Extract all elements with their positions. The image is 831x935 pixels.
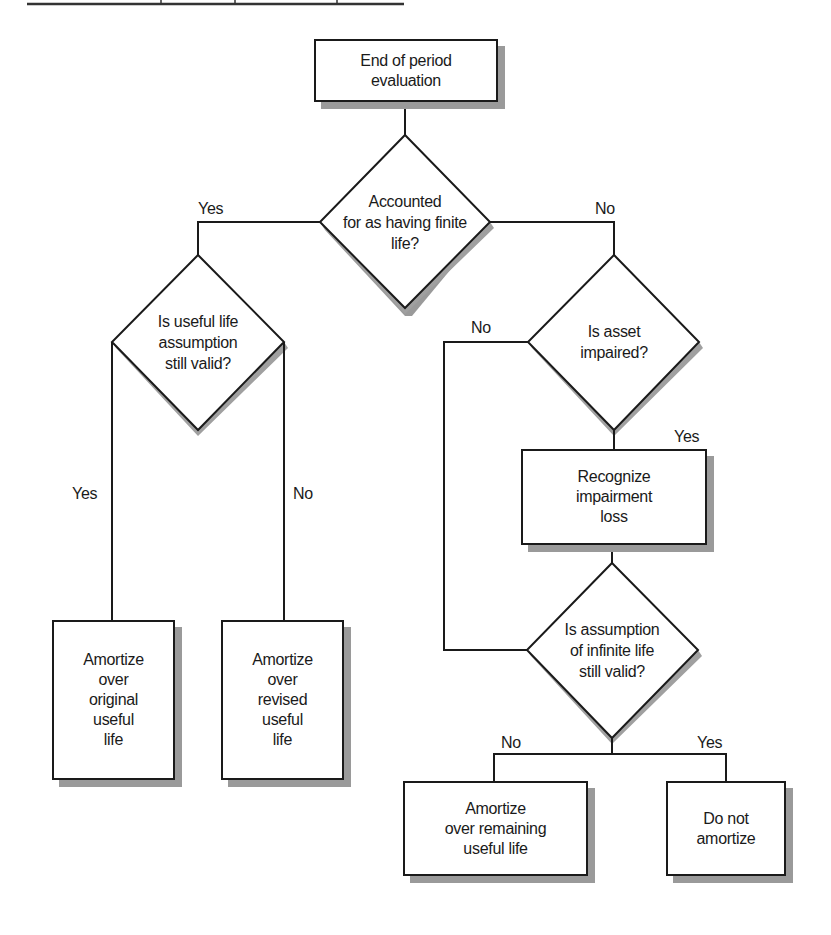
- useful-life-decision: Is useful life assumption still valid?: [118, 300, 278, 384]
- infinite-life-label: Is assumption of infinite life still val…: [565, 619, 660, 682]
- amortize-original-box: Amortize over original useful life: [52, 620, 175, 780]
- finite-life-label: Accounted for as having finite life?: [343, 191, 467, 254]
- amortize-revised-label: Amortize over revised useful life: [252, 650, 313, 750]
- amortize-remaining-box: Amortize over remaining useful life: [403, 781, 588, 876]
- finite-yes-label: Yes: [198, 200, 223, 218]
- useful-life-label: Is useful life assumption still valid?: [158, 311, 238, 374]
- recognize-loss-box: Recognize impairment loss: [521, 449, 707, 545]
- infinite-life-decision: Is assumption of infinite life still val…: [530, 608, 694, 692]
- do-not-amortize-label: Do not amortize: [697, 809, 756, 849]
- useful-no-label: No: [293, 485, 313, 503]
- do-not-amortize-box: Do not amortize: [666, 781, 786, 876]
- asset-impaired-label: Is asset impaired?: [580, 321, 648, 363]
- finite-no-label: No: [595, 200, 615, 218]
- asset-impaired-decision: Is asset impaired?: [534, 310, 694, 374]
- infinite-no-label: No: [501, 734, 521, 752]
- impaired-no-label: No: [471, 319, 491, 337]
- recognize-loss-label: Recognize impairment loss: [576, 467, 652, 527]
- finite-life-decision: Accounted for as having finite life?: [320, 180, 490, 264]
- impaired-yes-label: Yes: [674, 428, 699, 446]
- infinite-yes-label: Yes: [697, 734, 722, 752]
- amortize-original-label: Amortize over original useful life: [83, 650, 144, 750]
- start-label: End of period evaluation: [360, 51, 451, 91]
- amortize-revised-box: Amortize over revised useful life: [221, 620, 344, 780]
- start-box: End of period evaluation: [314, 39, 498, 102]
- useful-yes-label: Yes: [72, 485, 97, 503]
- amortize-remaining-label: Amortize over remaining useful life: [445, 799, 547, 859]
